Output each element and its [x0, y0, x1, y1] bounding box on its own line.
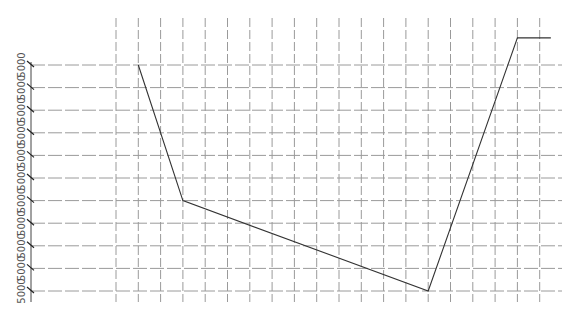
horizontal-gridlines [31, 65, 562, 291]
y-axis-labels: 5000500050005000500050005000500050005000… [16, 52, 27, 303]
data-line [138, 38, 551, 291]
line-chart: 5000500050005000500050005000500050005000… [0, 0, 579, 319]
y-tick-label: 5000 [16, 52, 27, 77]
vertical-gridlines [116, 18, 540, 302]
